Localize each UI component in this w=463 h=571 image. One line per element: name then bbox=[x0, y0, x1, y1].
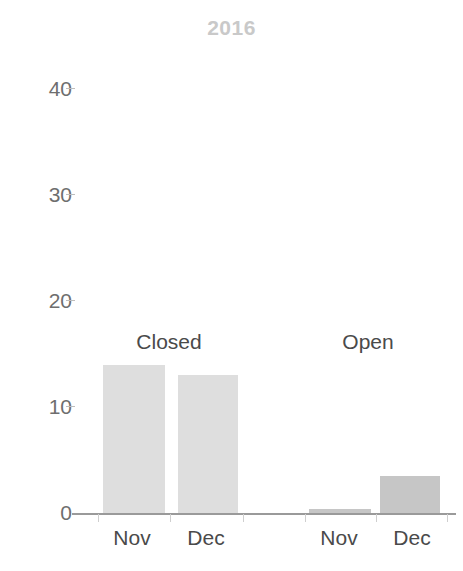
bar-closed-nov bbox=[103, 365, 165, 513]
bar-closed-dec bbox=[178, 375, 238, 513]
y-axis-tick-mark bbox=[66, 406, 75, 407]
y-axis-tick-mark bbox=[66, 300, 75, 301]
x-axis-tick-mark bbox=[305, 514, 306, 522]
y-axis-tick-mark bbox=[66, 194, 75, 195]
x-axis-tick-mark bbox=[376, 514, 377, 522]
y-axis-tick-label: 10 bbox=[24, 395, 72, 419]
x-axis-tick-mark bbox=[98, 514, 99, 522]
x-axis-tick-mark bbox=[243, 514, 244, 522]
x-axis-tick-mark bbox=[447, 514, 448, 522]
x-axis-label-open-dec: Dec bbox=[393, 526, 430, 550]
x-axis-tick-mark bbox=[170, 514, 171, 522]
y-axis-tick-label: 30 bbox=[24, 183, 72, 207]
y-axis-tick-label: 20 bbox=[24, 289, 72, 313]
y-axis-tick-mark bbox=[66, 88, 75, 89]
x-axis-line bbox=[72, 513, 456, 515]
x-axis-label-closed-nov: Nov bbox=[113, 526, 150, 550]
group-label-closed: Closed bbox=[136, 330, 201, 354]
group-label-open: Open bbox=[342, 330, 393, 354]
x-axis-label-closed-dec: Dec bbox=[187, 526, 224, 550]
y-axis-tick-label: 0 bbox=[24, 501, 72, 525]
x-axis-label-open-nov: Nov bbox=[320, 526, 357, 550]
bar-chart: 2016 40 30 20 10 0 Closed Open Nov Dec N… bbox=[0, 0, 463, 571]
bar-open-dec bbox=[380, 476, 440, 513]
chart-title: 2016 bbox=[0, 16, 463, 40]
y-axis-tick-label: 40 bbox=[24, 77, 72, 101]
